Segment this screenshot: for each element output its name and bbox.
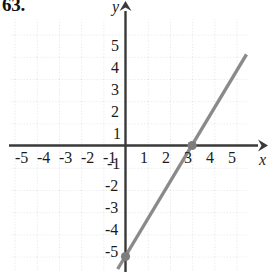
ytick-2: 2 <box>111 104 119 120</box>
ytick-4: 4 <box>111 60 119 76</box>
ytick-1: 1 <box>113 126 121 142</box>
ytick-3: 3 <box>111 82 119 98</box>
xtick-3: 3 <box>184 150 192 166</box>
ytick--3: -3 <box>105 200 118 216</box>
graph-figure: 63. -5 -4 -3 -2 -1 1 2 3 4 <box>0 0 271 274</box>
ytick--2: -2 <box>105 178 118 194</box>
xtick--3: -3 <box>59 150 72 166</box>
exercise-number: 63. <box>2 0 25 14</box>
y-axis-label: y <box>112 0 119 15</box>
xtick-1: 1 <box>140 150 148 166</box>
xtick--5: -5 <box>15 150 28 166</box>
xtick-2: 2 <box>162 150 170 166</box>
xtick--2: -2 <box>81 150 94 166</box>
ytick-5: 5 <box>111 38 119 54</box>
ytick--5: -5 <box>105 244 118 260</box>
xtick-4: 4 <box>206 150 214 166</box>
ytick--1: -1 <box>107 156 120 172</box>
xtick--4: -4 <box>37 150 50 166</box>
xtick-5: 5 <box>228 150 236 166</box>
y-axis-arrowhead <box>120 1 132 11</box>
x-axis-label: x <box>259 152 266 168</box>
ytick--4: -4 <box>105 222 118 238</box>
point-y-intercept <box>121 252 130 261</box>
coordinate-plane <box>0 0 271 274</box>
x-axis-arrowhead <box>258 140 268 152</box>
